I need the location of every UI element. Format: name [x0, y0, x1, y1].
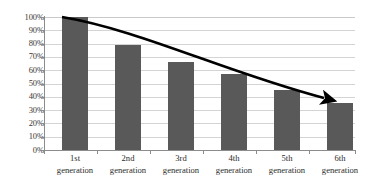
bar-chart: 100% 90% 80% 70% 60% 50% 40% 30% 20% 10%…	[0, 0, 370, 192]
downward-trend-arrow	[0, 0, 370, 192]
trend-arrow-path	[62, 17, 324, 98]
